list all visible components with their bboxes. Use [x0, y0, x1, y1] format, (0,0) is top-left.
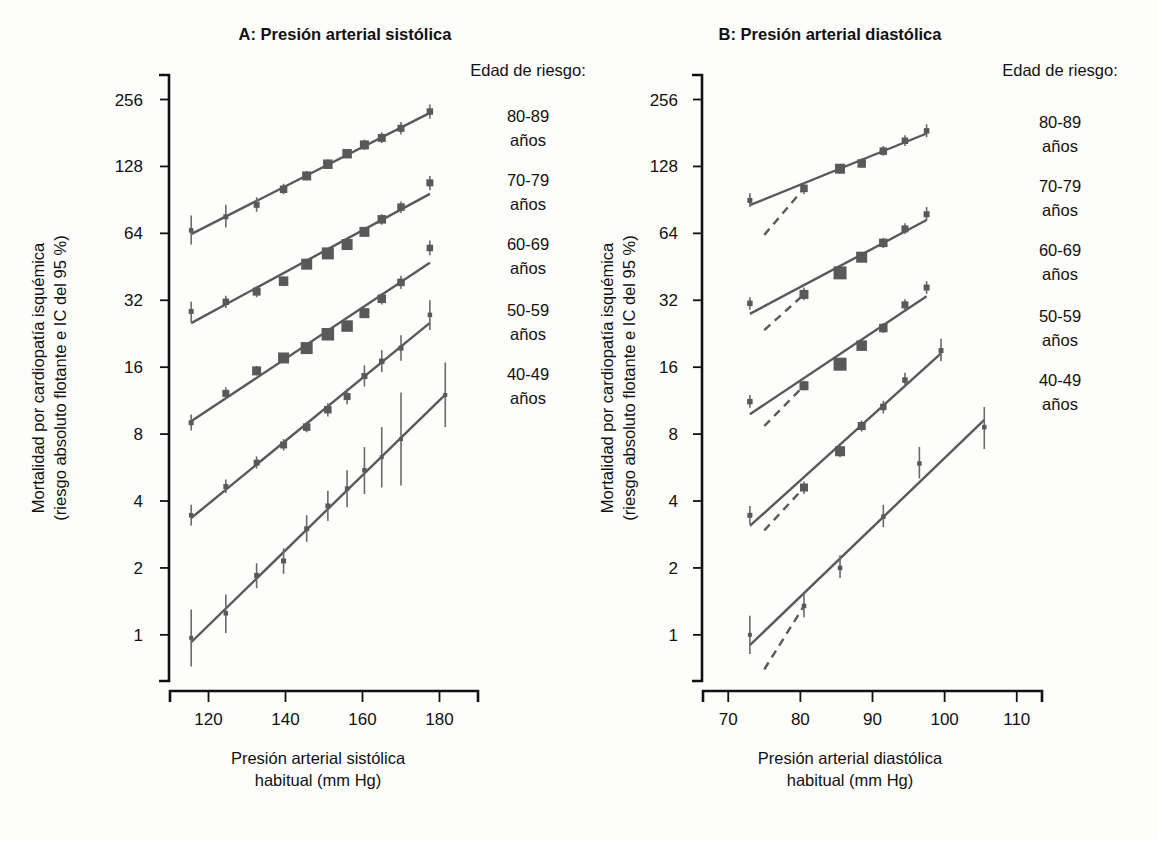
legend-item-range-A-2: 60-69 [507, 235, 549, 253]
legend-item-unit-B-3: años [1042, 331, 1078, 349]
data-point-B-2-4 [879, 324, 888, 333]
data-point-A-4-2 [254, 573, 259, 578]
data-point-A-3-2 [254, 460, 260, 466]
data-point-B-3-4 [880, 404, 887, 411]
fit-line-B-4 [750, 420, 984, 645]
data-point-B-1-6 [924, 211, 930, 217]
fit-line-dashed-B-4 [764, 606, 804, 669]
y-tick-label-A-5: 32 [124, 291, 143, 310]
data-point-A-2-8 [378, 295, 387, 304]
y-tick-label-A-7: 128 [115, 157, 143, 176]
legend-item-unit-B-0: años [1042, 137, 1078, 155]
y-tick-label-B-0: 1 [669, 626, 678, 645]
legend-item-range-A-1: 70-79 [507, 171, 549, 189]
legend-item-unit-A-2: años [510, 259, 546, 277]
x-axis-title-line1-A: Presión arterial sistólica [231, 749, 406, 767]
series-A-70-79-años [189, 176, 434, 323]
data-point-A-4-0 [189, 636, 193, 640]
data-point-A-1-2 [253, 288, 261, 296]
data-point-A-0-0 [189, 228, 194, 233]
panel-title-A: A: Presión arterial sistólica [239, 25, 453, 43]
x-tick-label-A-0: 120 [194, 710, 222, 729]
data-point-A-3-0 [189, 513, 194, 518]
data-point-B-3-5 [902, 377, 908, 383]
y-tick-label-B-6: 64 [659, 224, 678, 243]
y-tick-label-A-4: 16 [124, 358, 143, 377]
x-tick-label-B-1: 80 [791, 710, 810, 729]
data-point-A-2-1 [222, 390, 229, 397]
legend-item-unit-A-4: años [510, 389, 546, 407]
series-A-40-49-años [189, 362, 447, 666]
legend-item-range-B-4: 40-49 [1039, 371, 1081, 389]
data-point-B-2-0 [747, 399, 753, 405]
panel-A: A: Presión arterial sistólica12481632641… [29, 25, 586, 789]
data-point-A-2-6 [341, 320, 353, 332]
x-tick-label-B-3: 100 [930, 710, 958, 729]
data-point-A-1-5 [322, 247, 334, 259]
fit-line-B-2 [750, 296, 927, 414]
y-tick-label-B-8: 256 [650, 91, 678, 110]
data-point-A-0-4 [302, 171, 311, 180]
data-point-A-4-4 [304, 526, 309, 531]
legend-item-unit-B-4: años [1042, 395, 1078, 413]
y-tick-label-B-7: 128 [650, 157, 678, 176]
data-point-B-4-1 [802, 604, 807, 609]
fit-line-A-4 [191, 395, 445, 643]
legend-item-range-B-2: 60-69 [1039, 241, 1081, 259]
panel-B: B: Presión arterial diastólica1248163264… [598, 25, 1118, 789]
y-tick-label-B-1: 2 [669, 559, 678, 578]
data-point-A-4-10 [443, 393, 447, 397]
x-tick-label-A-3: 180 [425, 710, 453, 729]
data-point-A-4-1 [224, 611, 229, 616]
data-point-A-0-8 [378, 134, 386, 142]
data-point-A-4-7 [362, 468, 367, 473]
y-tick-label-B-5: 32 [659, 291, 678, 310]
x-axis-title-line2-B: habitual (mm Hg) [787, 771, 914, 789]
data-point-B-1-3 [856, 252, 867, 263]
data-point-A-4-9 [399, 437, 403, 441]
x-tick-label-A-2: 160 [348, 710, 376, 729]
data-point-A-0-7 [360, 140, 369, 149]
legend-item-unit-B-2: años [1042, 265, 1078, 283]
y-axis-title-line1-B: Mortalidad por cardiopatía isquémica [598, 242, 616, 513]
y-tick-label-B-3: 8 [669, 425, 678, 444]
data-point-A-3-8 [379, 359, 385, 365]
legend-A: Edad de riesgo:80-89años70-79años60-69añ… [470, 61, 586, 407]
data-point-A-3-1 [223, 484, 228, 489]
data-point-A-3-9 [399, 346, 404, 351]
data-point-A-1-9 [397, 203, 405, 211]
data-point-B-1-1 [799, 290, 808, 299]
data-point-B-3-1 [800, 484, 808, 492]
data-point-A-0-10 [427, 108, 434, 115]
data-point-A-0-1 [223, 214, 228, 219]
legend-title-B: Edad de riesgo: [1002, 61, 1118, 79]
fit-line-dashed-B-0 [764, 188, 804, 235]
data-point-B-2-1 [799, 381, 808, 390]
data-point-A-1-6 [342, 239, 353, 250]
data-point-B-3-0 [747, 513, 752, 518]
data-point-B-4-3 [881, 514, 886, 519]
data-point-B-0-5 [902, 138, 909, 145]
data-point-B-2-3 [856, 340, 867, 351]
x-tick-label-B-0: 70 [719, 710, 738, 729]
x-tick-label-B-4: 110 [1003, 710, 1030, 729]
data-point-A-1-3 [279, 276, 289, 286]
y-axis-title-line1-A: Mortalidad por cardiopatía isquémica [29, 242, 47, 513]
data-point-A-3-7 [361, 373, 367, 379]
figure-root: A: Presión arterial sistólica12481632641… [0, 0, 1158, 841]
data-point-B-0-6 [924, 128, 930, 134]
data-point-A-0-6 [342, 149, 352, 159]
series-B-40-49-años [748, 407, 987, 669]
legend-item-range-A-0: 80-89 [507, 107, 549, 125]
data-point-B-4-0 [748, 633, 752, 637]
legend-item-range-B-0: 80-89 [1039, 113, 1081, 131]
fit-line-dashed-B-1 [764, 294, 804, 330]
data-point-A-3-5 [324, 406, 332, 414]
y-tick-label-A-6: 64 [124, 224, 143, 243]
data-point-B-2-6 [924, 285, 930, 291]
data-point-B-0-0 [747, 198, 752, 203]
data-point-A-3-10 [428, 313, 433, 318]
series-A-50-59-años [189, 300, 432, 525]
data-point-A-2-7 [359, 308, 369, 318]
y-tick-label-A-1: 2 [134, 559, 143, 578]
